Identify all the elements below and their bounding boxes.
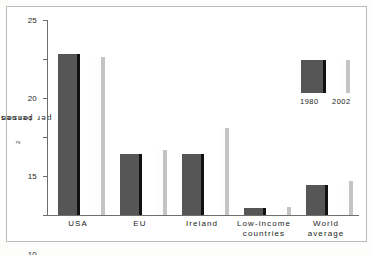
bar-1980	[120, 154, 139, 215]
bar-1980-body	[58, 54, 77, 215]
bar-1980-body	[120, 154, 139, 215]
bar-2002	[343, 181, 349, 215]
bar-1980-body	[244, 208, 263, 215]
bar-1980-body	[182, 154, 201, 215]
y-axis-label-suffix: per person	[0, 114, 51, 123]
bar-2002-edge	[287, 207, 291, 215]
x-axis-category-label-line: countries	[233, 229, 295, 239]
legend-swatch-1980	[301, 60, 323, 93]
legend-label-1980: 1980	[300, 97, 319, 106]
x-axis-category-label-line: World	[295, 219, 357, 229]
bar-group	[109, 20, 171, 215]
plot-area: 0510152025 1980 2002	[47, 20, 357, 215]
bar-2002	[281, 207, 287, 215]
bar-group	[47, 20, 109, 215]
y-axis-tick-mark: 0	[43, 215, 47, 216]
bar-1980-edge	[77, 54, 80, 215]
x-axis-line	[47, 215, 359, 216]
x-axis-category-label: Low-incomecountries	[233, 219, 295, 239]
bar-2002	[157, 150, 163, 215]
y-axis-tick-label: 20	[28, 94, 37, 103]
legend-swatch-2002	[340, 60, 346, 93]
bar-1980-edge	[139, 154, 142, 215]
y-axis-tick-label: 25	[28, 16, 37, 25]
bar-1980	[306, 185, 325, 215]
x-axis-category-label: USA	[47, 219, 109, 229]
bar-1980	[244, 208, 263, 215]
bar-group	[295, 20, 357, 215]
bar-1980	[58, 54, 77, 215]
x-axis-category-label-line: Ireland	[171, 219, 233, 229]
y-axis-label-subscript: 2	[15, 140, 21, 143]
x-axis-category-label: Worldaverage	[295, 219, 357, 239]
y-axis-tick-label: 15	[28, 172, 37, 181]
bar-2002	[219, 128, 225, 215]
bar-1980-edge	[201, 154, 204, 215]
y-axis-label: tonnes CO2 per person	[8, 20, 24, 216]
bar-2002-edge	[225, 128, 229, 215]
x-axis-category-label-line: EU	[109, 219, 171, 229]
bar-group	[233, 20, 295, 215]
legend-swatch-2002-edge	[346, 60, 350, 93]
legend-label-2002: 2002	[332, 97, 351, 106]
chart-legend: 1980 2002	[301, 60, 363, 108]
bar-2002-edge	[163, 150, 167, 215]
x-axis-category-label: EU	[109, 219, 171, 229]
x-axis-category-label-line: Low-income	[233, 219, 295, 229]
bar-group	[171, 20, 233, 215]
bar-1980	[182, 154, 201, 215]
bar-2002-edge	[101, 57, 105, 215]
y-axis-tick-label: 10	[28, 250, 37, 255]
legend-swatch-1980-edge	[323, 60, 326, 93]
x-axis-category-label: Ireland	[171, 219, 233, 229]
x-axis-category-label-line: USA	[47, 219, 109, 229]
x-axis-category-label-line: average	[295, 229, 357, 239]
bar-1980-body	[306, 185, 325, 215]
chart-figure: tonnes CO2 per person 0510152025 1980 20…	[0, 0, 373, 255]
bar-1980-edge	[263, 208, 266, 215]
bar-2002	[95, 57, 101, 215]
bar-1980-edge	[325, 185, 328, 215]
bar-2002-edge	[349, 181, 353, 215]
